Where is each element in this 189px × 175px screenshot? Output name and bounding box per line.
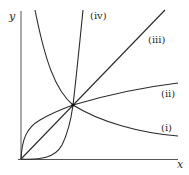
function-graph: y x (iv) (iii) (ii) (i) — [0, 0, 189, 175]
curve-iv — [21, 10, 83, 159]
curve-i-label: (i) — [161, 122, 172, 133]
curve-ii-label: (ii) — [161, 88, 175, 99]
curve-ii — [21, 83, 178, 159]
y-axis-label: y — [8, 10, 16, 23]
curve-iii — [21, 10, 165, 159]
x-axis-label: x — [177, 158, 184, 171]
curve-iv-label: (iv) — [90, 10, 107, 21]
curve-iii-label: (iii) — [148, 34, 165, 45]
curve-i — [35, 10, 178, 136]
intersection-point — [71, 103, 74, 106]
